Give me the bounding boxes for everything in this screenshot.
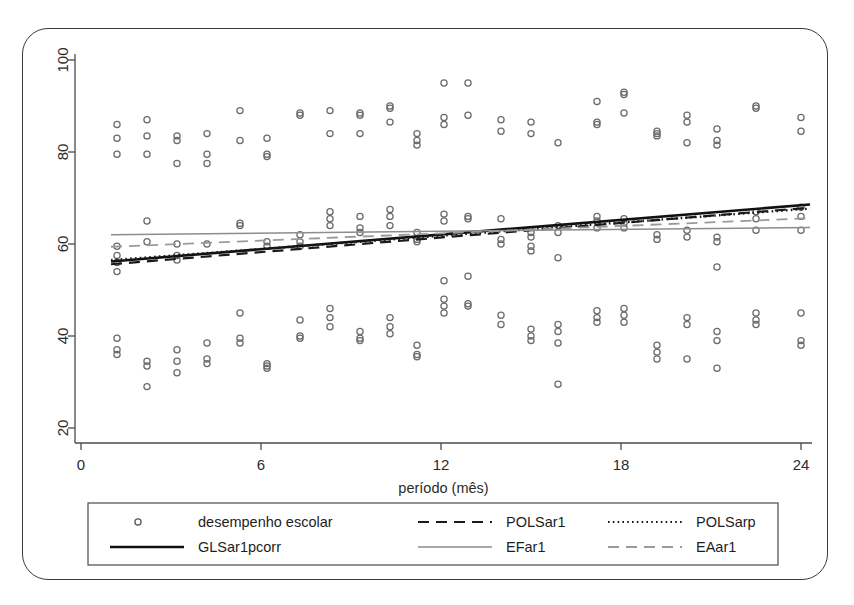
scatter-point	[327, 131, 333, 137]
legend-entry[interactable]: POLSarp	[608, 514, 756, 530]
scatter-point	[684, 112, 690, 118]
scatter-point	[555, 328, 561, 334]
scatter-point	[528, 131, 534, 137]
x-tick-label: 18	[613, 456, 630, 473]
scatter-point	[555, 381, 561, 387]
scatter-point	[204, 361, 210, 367]
scatter-point	[174, 160, 180, 166]
scatter-point	[654, 342, 660, 348]
plot-svg: 2040608010006121824período (mês)desempen…	[0, 0, 854, 605]
scatter-point	[753, 310, 759, 316]
scatter-point	[144, 218, 150, 224]
x-tick-label: 24	[793, 456, 810, 473]
scatter-series	[114, 80, 804, 390]
scatter-point	[414, 142, 420, 148]
scatter-point	[327, 108, 333, 114]
scatter-point	[528, 248, 534, 254]
scatter-point	[414, 131, 420, 137]
scatter-point	[528, 119, 534, 125]
scatter-point	[684, 119, 690, 125]
legend-label: EAar1	[696, 539, 736, 555]
scatter-point	[204, 131, 210, 137]
scatter-point	[441, 303, 447, 309]
regression-line-eaar1	[111, 218, 810, 247]
scatter-point	[114, 269, 120, 275]
scatter-point	[237, 108, 243, 114]
scatter-point	[621, 305, 627, 311]
legend-label: EFar1	[506, 539, 546, 555]
y-tick-label: 20	[54, 420, 71, 437]
scatter-point	[114, 121, 120, 127]
scatter-point	[387, 331, 393, 337]
scatter-point	[174, 347, 180, 353]
scatter-point	[237, 310, 243, 316]
scatter-point	[144, 133, 150, 139]
scatter-point	[621, 110, 627, 116]
scatter-point	[114, 252, 120, 258]
scatter-point	[498, 117, 504, 123]
scatter-point	[798, 128, 804, 134]
scatter-point	[144, 117, 150, 123]
y-tick-label: 40	[54, 328, 71, 345]
scatter-point	[684, 234, 690, 240]
scatter-point	[387, 213, 393, 219]
scatter-point	[114, 151, 120, 157]
x-axis-title: período (mês)	[398, 480, 488, 496]
scatter-point	[387, 324, 393, 330]
scatter-point	[594, 319, 600, 325]
y-tick-label: 100	[54, 47, 71, 72]
scatter-point	[798, 114, 804, 120]
scatter-point	[594, 308, 600, 314]
scatter-point	[327, 223, 333, 229]
scatter-point	[684, 321, 690, 327]
legend: desempenho escolarPOLSar1POLSarpGLSar1pc…	[88, 503, 778, 565]
scatter-point	[144, 363, 150, 369]
scatter-point	[297, 317, 303, 323]
scatter-point	[498, 128, 504, 134]
scatter-point	[714, 365, 720, 371]
scatter-point	[498, 312, 504, 318]
legend-entry[interactable]: EAar1	[608, 539, 736, 555]
regression-lines	[111, 204, 810, 264]
scatter-point	[204, 160, 210, 166]
scatter-point	[114, 335, 120, 341]
scatter-point	[441, 114, 447, 120]
legend-entry[interactable]: desempenho escolar	[135, 514, 333, 530]
scatter-point	[498, 216, 504, 222]
scatter-point	[465, 112, 471, 118]
scatter-point	[357, 131, 363, 137]
scatter-point	[465, 80, 471, 86]
scatter-point	[528, 338, 534, 344]
scatter-point	[441, 218, 447, 224]
legend-entry[interactable]: GLSar1pcorr	[110, 539, 281, 555]
scatter-point	[204, 241, 210, 247]
legend-entry[interactable]: POLSar1	[418, 514, 566, 530]
legend-entry[interactable]: EFar1	[418, 539, 546, 555]
scatter-point	[327, 315, 333, 321]
scatter-point	[327, 305, 333, 311]
scatter-point	[387, 206, 393, 212]
scatter-point	[753, 216, 759, 222]
scatter-point	[498, 321, 504, 327]
scatter-point	[798, 342, 804, 348]
x-tick-label: 12	[433, 456, 450, 473]
scatter-point	[528, 326, 534, 332]
scatter-point	[327, 324, 333, 330]
legend-marker-open-circle	[135, 519, 141, 525]
scatter-point	[555, 340, 561, 346]
scatter-point	[144, 239, 150, 245]
scatter-point	[441, 121, 447, 127]
legend-box	[88, 503, 778, 565]
scatter-point	[753, 321, 759, 327]
scatter-point	[621, 312, 627, 318]
legend-label: GLSar1pcorr	[198, 539, 281, 555]
scatter-point	[174, 137, 180, 143]
scatter-point	[174, 370, 180, 376]
scatter-point	[144, 151, 150, 157]
scatter-point	[594, 98, 600, 104]
x-tick-label: 6	[257, 456, 265, 473]
scatter-point	[555, 140, 561, 146]
scatter-point	[684, 315, 690, 321]
legend-label: POLSarp	[696, 514, 756, 530]
scatter-point	[714, 239, 720, 245]
